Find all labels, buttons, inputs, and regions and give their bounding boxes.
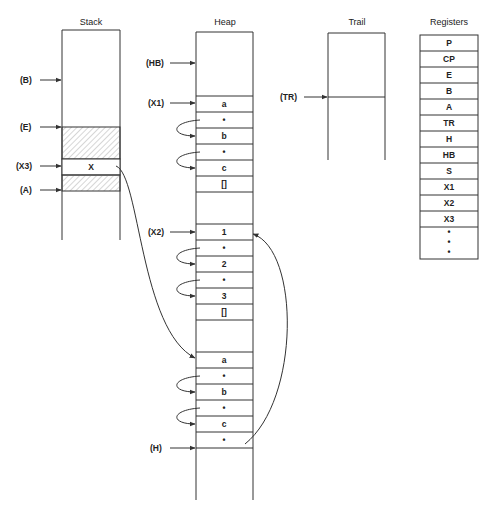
register-x3: X3 [444, 214, 455, 224]
stack-title: Stack [80, 17, 103, 27]
register-s: S [446, 166, 452, 176]
stack-env-frame-hatched [62, 127, 120, 159]
heap-cell: a [222, 355, 227, 365]
stack-pointer-e: (E) [20, 122, 32, 132]
stack-cell-x-label: X [88, 162, 94, 172]
register-x1: X1 [444, 182, 455, 192]
heap-title: Heap [214, 17, 236, 27]
heap-cell: 1 [222, 227, 227, 237]
register-ellipsis-dot: • [448, 247, 451, 257]
heap-cell-ref: • [223, 115, 226, 125]
register-p: P [446, 38, 452, 48]
heap-pointer-x1: (X1) [148, 98, 164, 108]
heap-cell-ref: • [223, 147, 226, 157]
heap-list-2: 1 • 2 • 3 [] [177, 224, 253, 320]
reference-arrow-x-to-list3 [116, 166, 195, 358]
heap-cell-ref: • [223, 371, 226, 381]
register-x2: X2 [444, 198, 455, 208]
reference-arrow-tail-to-list2 [245, 234, 287, 444]
register-e: E [446, 70, 452, 80]
heap-pointer-h: (H) [150, 443, 162, 453]
stack-pointer-b: (B) [20, 75, 32, 85]
stack-arg-hatched [62, 175, 120, 191]
heap-list-3: a • b • c • [177, 352, 253, 448]
heap-cell-nil: [] [221, 179, 227, 189]
heap-list-1: a • b • c [] [177, 96, 253, 192]
heap-pointer-hb: (HB) [146, 58, 164, 68]
register-h: H [446, 134, 452, 144]
heap-pointer-x2: (X2) [148, 227, 164, 237]
heap-cell-ref: • [223, 243, 226, 253]
register-a: A [446, 102, 452, 112]
heap-area: Heap a • b • c [] [116, 17, 287, 500]
heap-cell: a [222, 99, 227, 109]
heap-cell: b [221, 387, 226, 397]
registers-area: Registers P CP E B A TR H HB S X1 X2 X3 … [420, 17, 478, 259]
register-cp: CP [443, 54, 455, 64]
heap-cell-ref: • [223, 275, 226, 285]
registers-title: Registers [430, 17, 469, 27]
trail-area: Trail (TR) [280, 17, 385, 160]
heap-cell-ref: • [223, 435, 226, 445]
stack-area: Stack X (B) (E) (X3) (A) [16, 17, 120, 240]
stack-pointer-x3: (X3) [16, 161, 32, 171]
heap-cell: 3 [222, 291, 227, 301]
trail-pointer-tr: (TR) [280, 92, 297, 102]
heap-cell: c [222, 163, 227, 173]
register-tr: TR [443, 118, 454, 128]
register-ellipsis-dot: • [448, 227, 451, 237]
heap-cell: c [222, 419, 227, 429]
heap-cell-nil: [] [221, 307, 227, 317]
trail-title: Trail [348, 17, 365, 27]
register-hb: HB [443, 150, 455, 160]
register-ellipsis-dot: • [448, 237, 451, 247]
heap-cell-ref: • [223, 403, 226, 413]
stack-pointer-a: (A) [20, 185, 32, 195]
register-b: B [446, 86, 452, 96]
heap-cell: 2 [222, 259, 227, 269]
heap-cell: b [221, 131, 226, 141]
wam-memory-diagram: Stack X (B) (E) (X3) (A) Heap a • b [0, 0, 493, 516]
